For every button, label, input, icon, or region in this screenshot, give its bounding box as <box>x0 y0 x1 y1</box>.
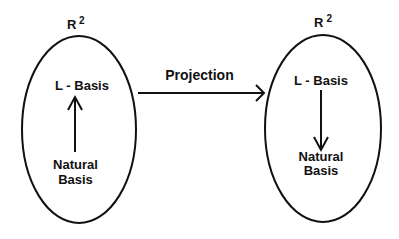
up-arrow-icon <box>68 97 82 152</box>
left-natural-basis-label-line1: Natural <box>53 157 98 172</box>
right-natural-basis-label-line2: Basis <box>304 163 339 178</box>
projection-diagram: R 2 L - Basis Natural Basis Projection R… <box>0 0 399 239</box>
left-l-basis-label: L - Basis <box>55 78 109 93</box>
right-space-ellipse <box>265 35 381 222</box>
projection-label: Projection <box>165 67 233 83</box>
right-l-basis-label: L - Basis <box>294 73 348 88</box>
left-space-ellipse <box>22 36 136 223</box>
right-arrow-icon <box>138 85 264 101</box>
projection-connector: Projection <box>138 67 264 102</box>
right-space-label: R <box>314 15 324 30</box>
right-space-superscript: 2 <box>327 13 333 24</box>
left-space-superscript: 2 <box>79 15 85 26</box>
left-space-label: R <box>67 17 77 32</box>
right-space: R 2 L - Basis Natural Basis <box>265 13 381 222</box>
down-arrow-icon <box>314 90 328 150</box>
left-natural-basis-label-line2: Basis <box>58 172 93 187</box>
right-natural-basis-label-line1: Natural <box>299 149 344 164</box>
left-space: R 2 L - Basis Natural Basis <box>22 15 136 223</box>
